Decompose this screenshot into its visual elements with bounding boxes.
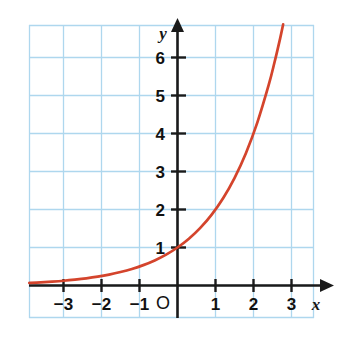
y-tick-label: 6 [156,49,165,68]
x-tick-label: −3 [54,295,73,314]
x-tick-label: −2 [92,295,111,314]
y-tick-label: 3 [156,163,165,182]
y-tick-label: 4 [156,125,166,144]
x-tick-label: −1 [130,295,149,314]
x-axis-label: x [311,295,321,314]
graph-figure: −3 −2 −1 1 2 3 1 2 3 4 5 6 O y x [0,0,344,339]
origin-label: O [156,293,170,313]
y-tick-label: 1 [156,239,165,258]
y-tick-label: 2 [156,201,165,220]
x-tick-label: 1 [211,295,220,314]
y-tick-label: 5 [156,87,165,106]
x-tick-label: 2 [249,295,258,314]
y-axis-label: y [157,24,167,43]
x-tick-label: 3 [287,295,296,314]
coordinate-plane: −3 −2 −1 1 2 3 1 2 3 4 5 6 O y x [0,0,344,339]
